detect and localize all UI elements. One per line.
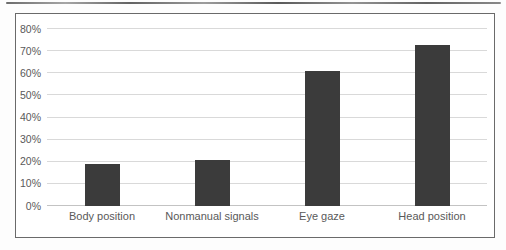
bar-slot	[377, 29, 487, 206]
y-tick-label: 60%	[20, 68, 41, 79]
bar-body-position	[85, 164, 120, 206]
y-tick-label: 10%	[20, 179, 41, 190]
x-category-label: Eye gaze	[267, 210, 377, 222]
y-tick-label: 20%	[20, 157, 41, 168]
y-axis: 0%10%20%30%40%50%60%70%80%	[16, 29, 43, 206]
x-category-label: Head position	[377, 210, 487, 222]
y-tick-label: 50%	[20, 90, 41, 101]
chart-frame: 0%10%20%30%40%50%60%70%80% Body position…	[15, 13, 495, 238]
bar-slot	[47, 29, 157, 206]
y-tick-label: 70%	[20, 46, 41, 57]
bar-head-position	[415, 45, 450, 207]
bar-slot	[267, 29, 377, 206]
bar-nonmanual-signals	[195, 160, 230, 206]
y-tick-label: 0%	[26, 201, 41, 212]
figure-canvas: 0%10%20%30%40%50%60%70%80% Body position…	[0, 0, 506, 250]
scan-artifact-line	[6, 2, 501, 4]
bar-eye-gaze	[305, 71, 340, 206]
plot-area	[47, 29, 487, 206]
bars-row	[47, 29, 487, 206]
x-category-label: Body position	[47, 210, 157, 222]
y-tick-label: 30%	[20, 134, 41, 145]
y-tick-label: 40%	[20, 112, 41, 123]
y-tick-label: 80%	[20, 24, 41, 35]
x-category-label: Nonmanual signals	[157, 210, 267, 222]
x-axis: Body positionNonmanual signalsEye gazeHe…	[47, 210, 487, 222]
bar-slot	[157, 29, 267, 206]
